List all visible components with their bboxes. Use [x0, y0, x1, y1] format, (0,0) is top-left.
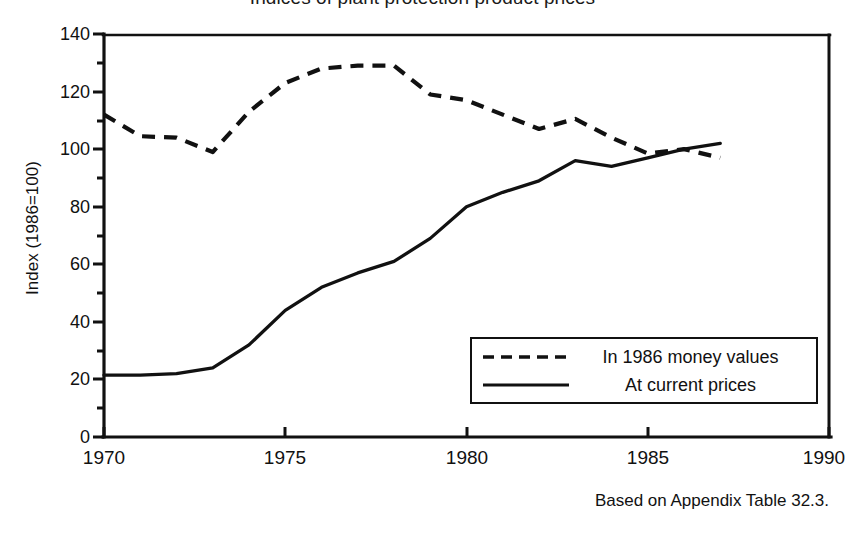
chart-legend: In 1986 money values At current prices — [470, 337, 818, 404]
legend-label-at-current-prices: At current prices — [571, 376, 816, 394]
legend-swatch-dashed-icon — [481, 350, 571, 364]
legend-swatch-solid-icon — [481, 378, 571, 392]
legend-label-1986-money-values: In 1986 money values — [571, 348, 816, 366]
chart-footnote: Based on Appendix Table 32.3. — [0, 491, 829, 511]
legend-entry-at-current-prices: At current prices — [472, 371, 816, 399]
chart-figure: Indices of plant protection product pric… — [0, 0, 845, 533]
legend-entry-1986-money-values: In 1986 money values — [472, 343, 816, 371]
plot-area — [0, 0, 845, 533]
series-line-in-1986-money-values — [104, 66, 720, 158]
